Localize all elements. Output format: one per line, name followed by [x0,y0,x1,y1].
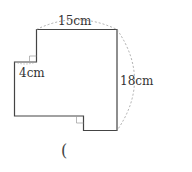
label-right: 18cm [120,74,154,88]
label-top: 15cm [58,14,92,28]
figure: 15cm 18cm 4cm [0,0,192,172]
right-angle-marker [77,116,84,123]
stepped-shape [15,30,118,131]
right-angle-marker [30,56,37,62]
label-step: 4cm [19,66,45,80]
answer-bracket: ( [61,141,67,160]
